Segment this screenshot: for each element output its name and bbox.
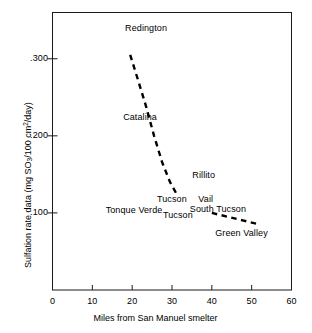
data-point-label: Catalina <box>123 112 157 122</box>
x-tick-label: 40 <box>192 296 232 306</box>
data-point-label: Tucson <box>163 210 193 220</box>
data-point-label: Rillito <box>192 170 215 180</box>
x-tick-label: 0 <box>33 296 73 306</box>
x-tick-label: 50 <box>232 296 272 306</box>
data-point-label: Vail <box>198 194 213 204</box>
x-tick-label: 60 <box>272 296 312 306</box>
data-point-label: Tonque Verde <box>106 205 163 215</box>
x-axis-title: Miles from San Manuel smelter <box>0 313 311 323</box>
plot-frame <box>53 13 292 291</box>
y-axis-title-prefix: Sulfation rate data (mg SO <box>23 161 33 268</box>
series-line-0 <box>130 55 176 193</box>
x-tick-marks <box>53 285 292 290</box>
x-tick-label: 10 <box>72 296 112 306</box>
axes-frame <box>53 13 292 291</box>
y-axis-title-mid: /100 cm <box>23 126 33 158</box>
data-point-label: Green Valley <box>215 228 268 238</box>
y-axis-title: Sulfation rate data (mg SO3/100 cm2/day) <box>22 102 33 268</box>
data-point-label: Redington <box>125 23 167 33</box>
y-axis-title-sub: 3 <box>26 158 33 162</box>
y-axis-title-suffix: /day) <box>23 102 33 122</box>
plot-area-svg <box>0 0 311 333</box>
data-series-lines <box>130 55 259 225</box>
x-tick-label: 20 <box>112 296 152 306</box>
y-axis-title-sup: 2 <box>22 122 29 126</box>
data-point-label: Tucson <box>157 194 187 204</box>
series-line-1 <box>212 213 260 225</box>
sulfation-rate-chart: .100.200.300 0102030405060 RedingtonCata… <box>0 0 311 333</box>
y-tick-label: .300 <box>16 53 48 63</box>
x-tick-label: 30 <box>152 296 192 306</box>
data-point-label: South Tucson <box>190 204 246 214</box>
